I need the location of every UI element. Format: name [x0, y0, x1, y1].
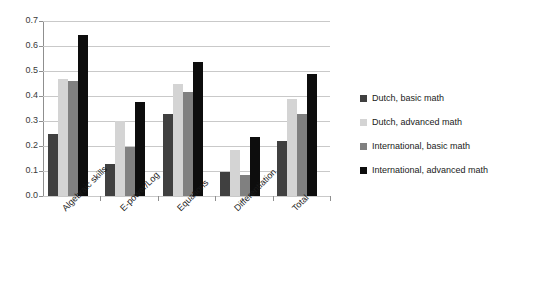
y-tick-mark [39, 121, 43, 122]
bar-chart: 0.70.60.50.40.30.20.10.0 Algebraic skill… [0, 0, 542, 286]
y-tick-mark [39, 96, 43, 97]
y-tick-label: 0.6 [25, 41, 38, 50]
legend-swatch-icon [360, 143, 367, 150]
y-tick-label: 0.7 [25, 16, 38, 25]
y-tick-label: 0.1 [25, 166, 38, 175]
y-tick-label-wrap: 0.4 [8, 91, 38, 100]
y-tick-label: 0.0 [25, 191, 38, 200]
x-tick-mark [273, 196, 274, 201]
bar [193, 62, 203, 196]
y-tick-mark [39, 171, 43, 172]
y-tick-label: 0.2 [25, 141, 38, 150]
plot-area [43, 21, 330, 196]
legend-swatch-icon [360, 119, 367, 126]
bar-group [163, 21, 203, 196]
y-tick-label-wrap: 0.2 [8, 141, 38, 150]
legend-label: Dutch, basic math [372, 94, 444, 103]
legend-swatch-icon [360, 167, 367, 174]
y-tick-label: 0.4 [25, 91, 38, 100]
y-tick-label-wrap: 0.1 [8, 166, 38, 175]
bar-group [105, 21, 145, 196]
bar [68, 81, 78, 196]
y-tick-mark [39, 71, 43, 72]
bar [78, 35, 88, 196]
x-tick-mark [330, 196, 331, 201]
bar-group [220, 21, 260, 196]
x-tick-mark [215, 196, 216, 201]
bar [58, 79, 68, 197]
y-tick-label-wrap: 0.5 [8, 66, 38, 75]
y-tick-label-wrap: 0.0 [8, 191, 38, 200]
y-tick-mark [39, 46, 43, 47]
bar [287, 99, 297, 197]
bar [183, 92, 193, 196]
legend-item: International, advanced math [360, 158, 540, 182]
x-tick-mark [100, 196, 101, 201]
y-tick-mark [39, 196, 43, 197]
bar [307, 74, 317, 197]
x-tick-mark [158, 196, 159, 201]
y-tick-mark [39, 21, 43, 22]
bar [173, 84, 183, 197]
legend-label: International, basic math [372, 142, 470, 151]
bar [163, 114, 173, 197]
y-tick-mark [39, 146, 43, 147]
legend-item: International, basic math [360, 134, 540, 158]
legend-item: Dutch, advanced math [360, 110, 540, 134]
bar [48, 134, 58, 197]
y-tick-label: 0.5 [25, 66, 38, 75]
chart-legend: Dutch, basic mathDutch, advanced mathInt… [360, 86, 540, 182]
bar [230, 150, 240, 196]
legend-item: Dutch, basic math [360, 86, 540, 110]
bar [220, 172, 230, 196]
legend-label: Dutch, advanced math [372, 118, 462, 127]
legend-swatch-icon [360, 95, 367, 102]
bar [115, 121, 125, 196]
bar [277, 141, 287, 196]
legend-label: International, advanced math [372, 166, 488, 175]
y-tick-label-wrap: 0.3 [8, 116, 38, 125]
y-tick-label: 0.3 [25, 116, 38, 125]
bar [297, 114, 307, 197]
bar-group [277, 21, 317, 196]
y-tick-label-wrap: 0.7 [8, 16, 38, 25]
y-tick-label-wrap: 0.6 [8, 41, 38, 50]
bar-group [48, 21, 88, 196]
